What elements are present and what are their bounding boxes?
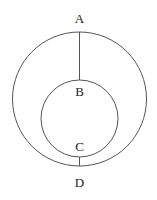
- diagram-canvas: A B C D: [0, 0, 157, 200]
- label-c: C: [75, 139, 84, 154]
- label-b: B: [75, 84, 84, 99]
- label-d: D: [75, 175, 84, 190]
- label-a: A: [75, 11, 85, 26]
- concentric-circles-diagram: A B C D: [0, 0, 157, 200]
